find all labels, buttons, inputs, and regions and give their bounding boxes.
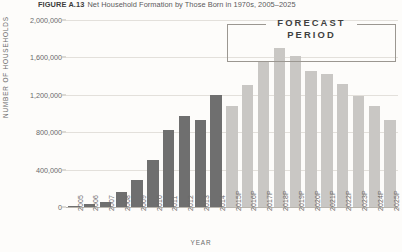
figure-container: FIGURE A.13Net Household Formation by Th… (0, 0, 402, 252)
y-axis-tick-label: 1,600,000 (0, 53, 62, 62)
forecast-label-line1: FORECAST (277, 17, 345, 28)
figure-title: FIGURE A.13Net Household Formation by Th… (38, 0, 388, 10)
forecast-period-label: FORECAST PERIOD (227, 17, 396, 40)
x-axis-tick-label: 2017P (266, 197, 273, 211)
x-axis-tick-label: 2020P (314, 197, 321, 211)
x-axis-tick-label: 2014 (219, 197, 226, 211)
bar (274, 48, 285, 207)
x-axis-tick-label: 2016P (250, 197, 257, 211)
x-axis-tick-label: 2018P (282, 197, 289, 211)
x-axis-tick-label: 2021P (329, 197, 336, 211)
x-axis-label: YEAR (0, 239, 402, 246)
x-axis-tick-label: 2009 (140, 197, 147, 211)
y-axis-tick-label: 400,000 (0, 165, 62, 174)
y-axis-tick-label: 800,000 (0, 128, 62, 137)
x-axis-tick-label: 2007 (108, 197, 115, 211)
x-axis-tick-label: 2005 (77, 197, 84, 211)
x-axis-tick-label: 2023P (361, 197, 368, 211)
forecast-label-line2: PERIOD (227, 29, 396, 41)
x-axis-tick-label: 2011 (171, 197, 178, 211)
x-axis-tick-label: 2015P (235, 197, 242, 211)
figure-number: FIGURE A.13 (38, 0, 84, 9)
page-title: Net Household Formation by Those Born in… (87, 0, 295, 9)
x-axis-tick-label: 2006 (92, 197, 99, 211)
bar (242, 85, 253, 207)
x-axis-tick-label: 2013 (203, 197, 210, 211)
bar (290, 56, 301, 207)
x-axis-tick-label: 2010 (156, 197, 163, 211)
x-axis-tick-label: 2024P (377, 197, 384, 211)
y-axis-label: NUMBER OF HOUSEHOLDS (2, 16, 9, 118)
x-axis-tick-label: 2008 (124, 197, 131, 211)
bar (305, 71, 316, 208)
x-axis-tick-label: 2022P (345, 197, 352, 211)
bar (321, 74, 332, 207)
y-axis-tick-label: 1,200,000 (0, 90, 62, 99)
bar (337, 84, 348, 207)
bar (195, 120, 206, 207)
bar (210, 95, 221, 207)
y-axis-tick-label: 0 (0, 203, 62, 212)
x-axis-tick-label: 2019P (298, 197, 305, 211)
y-axis-tick-label: 2,000,000 (0, 16, 62, 25)
bar (179, 116, 190, 207)
bar (258, 61, 269, 207)
x-axis-tick-label: 2025P (393, 197, 400, 211)
x-axis-tick-label: 2012 (187, 197, 194, 211)
